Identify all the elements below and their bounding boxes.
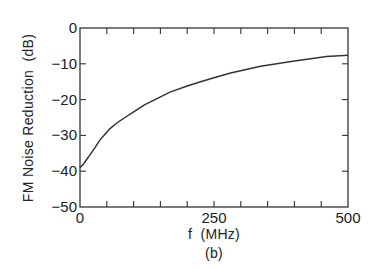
y-tick-label: −10 xyxy=(52,55,77,72)
x-ticks xyxy=(107,28,321,207)
y-tick-label: −20 xyxy=(52,91,77,108)
x-tick-label: 500 xyxy=(335,209,360,226)
x-axis-label: f (MHz) xyxy=(188,226,240,242)
y-tick-label: 0 xyxy=(69,19,77,36)
y-tick-label: −50 xyxy=(52,198,77,215)
chart-svg: 0250500 0−10−20−30−40−50 f (MHz) (b) FM … xyxy=(0,0,377,270)
plot-frame xyxy=(80,28,348,207)
noise-reduction-curve xyxy=(80,55,348,167)
y-tick-label: −40 xyxy=(52,162,77,179)
y-tick-labels: 0−10−20−30−40−50 xyxy=(52,19,77,215)
x-tick-label: 0 xyxy=(76,209,84,226)
y-ticks xyxy=(80,64,348,171)
figure-caption: (b) xyxy=(205,245,223,261)
y-tick-label: −30 xyxy=(52,126,77,143)
x-tick-labels: 0250500 xyxy=(76,209,361,226)
x-tick-label: 250 xyxy=(201,209,226,226)
y-axis-label: FM Noise Reduction (dB) xyxy=(20,34,36,202)
